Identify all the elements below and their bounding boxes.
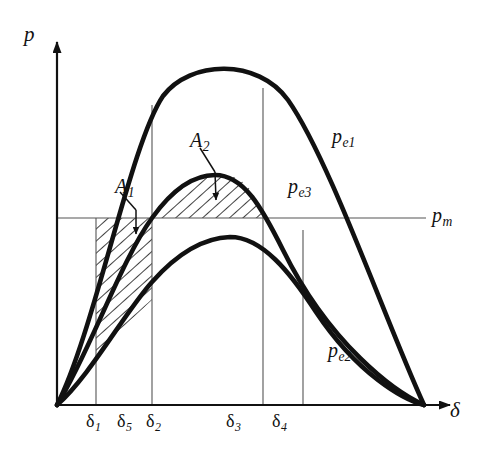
area-A1-label: A1 [115,176,135,196]
curve-pe1-label: pe1 [332,126,355,146]
tick-label-delta5: δ5 [117,412,132,430]
pm-label: pm [432,205,452,225]
curve-pe3-label: pe3 [288,176,311,196]
tick-label-delta3: δ3 [226,412,241,430]
y-axis-label: p [24,24,35,45]
tick-label-delta4: δ4 [272,412,287,430]
area-A2-label: A2 [190,130,210,150]
leader-A2-arrow [215,172,216,200]
tick-label-delta1: δ1 [86,412,101,430]
x-axis-label: δ [450,400,460,421]
tick-label-delta2: δ2 [146,412,161,430]
power-angle-equal-area-figure: p δ pm pe1 pe3 pe2 A1 A2 δ1 δ5 δ2 δ3 δ4 [0,0,490,453]
curve-pe2-label: pe2 [328,340,351,360]
area-A1-hatch [96,218,152,352]
plot-canvas [0,0,490,453]
